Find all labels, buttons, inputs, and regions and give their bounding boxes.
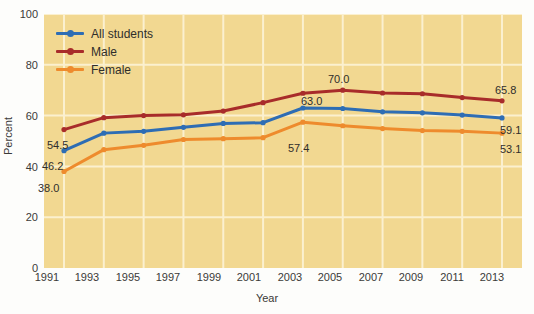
x-tick-1997: 1997: [145, 272, 191, 283]
value-label-male-2005: 70.0: [328, 74, 349, 85]
legend-item-female[interactable]: Female: [56, 62, 153, 77]
legend-item-all-students[interactable]: All students: [56, 26, 153, 41]
value-label-all-students-2013: 59.1: [500, 125, 521, 136]
x-tick-2009: 2009: [388, 272, 434, 283]
x-tick-1993: 1993: [64, 272, 110, 283]
y-tick-80: 80: [4, 60, 38, 71]
x-axis-title: Year: [0, 292, 534, 304]
y-tick-20: 20: [4, 212, 38, 223]
value-label-all-students-1991: 46.2: [42, 161, 63, 172]
value-label-female-2003: 57.4: [288, 143, 309, 154]
legend-label-all-students: All students: [91, 27, 153, 41]
legend-label-male: Male: [91, 45, 117, 59]
value-label-female-2013: 53.1: [500, 144, 521, 155]
value-label-male-1991: 54.5: [47, 140, 68, 151]
x-tick-2005: 2005: [307, 272, 353, 283]
legend: All students Male Female: [56, 26, 153, 77]
legend-label-female: Female: [91, 63, 131, 77]
line-chart: 100 80 60 40 20 0 Percent 1991 1993 1995…: [0, 0, 534, 314]
x-tick-2001: 2001: [226, 272, 272, 283]
value-label-male-2013: 65.8: [495, 85, 516, 96]
legend-swatch-female-icon: [56, 64, 84, 75]
y-tick-100: 100: [4, 9, 38, 20]
legend-swatch-male-icon: [56, 46, 84, 57]
value-label-all-students-2003: 63.0: [301, 96, 322, 107]
x-tick-2013: 2013: [469, 272, 515, 283]
legend-swatch-all-students-icon: [56, 28, 84, 39]
value-label-female-1991: 38.0: [38, 183, 59, 194]
y-axis-title: Percent: [2, 106, 14, 166]
legend-item-male[interactable]: Male: [56, 44, 153, 59]
